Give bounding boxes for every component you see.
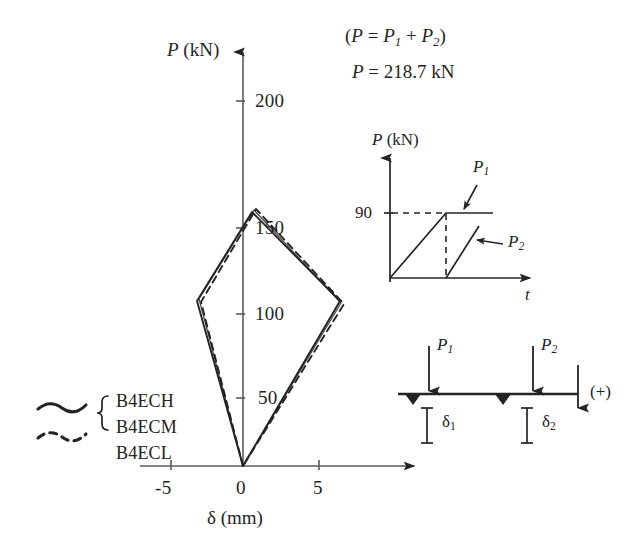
inset-series-label-p1: P1 — [473, 158, 489, 178]
inset-p2-subscript: 2 — [518, 240, 524, 253]
relation-p2: P — [421, 25, 433, 46]
beam-support-right-icon — [495, 394, 511, 405]
x-tick-label-5: 5 — [313, 478, 323, 497]
legend-label-b4ech: B4ECH — [116, 392, 174, 410]
inset-y-axis-title: P (kN) — [372, 131, 419, 148]
inset-y-axis-unit: (kN) — [387, 130, 419, 149]
relation-p: P — [351, 25, 363, 46]
inset-p2-pointer-arrow — [477, 240, 503, 244]
deflection-markers — [421, 408, 533, 443]
x-tick-label-0: 0 — [236, 478, 246, 497]
legend-samples — [38, 396, 108, 441]
figure-container: P (kN) 200 150 100 50 -5 0 5 δ (mm) (P =… — [0, 0, 644, 552]
curve-b4ecl — [201, 209, 344, 466]
y-tick-label-50: 50 — [258, 388, 278, 407]
beam-p2-symbol: P — [541, 335, 551, 354]
beam-p2-subscript: 2 — [551, 343, 557, 356]
y-tick-label-100: 100 — [255, 304, 284, 323]
annotation-load-relation: (P = P1 + P2) — [345, 26, 446, 49]
deflection-label-delta1: δ1 — [442, 413, 456, 433]
x-axis-title-unit: (mm) — [221, 507, 263, 528]
figure-vector-layer — [0, 0, 644, 552]
beam-load-label-p2: P2 — [541, 336, 557, 356]
beam-p1-symbol: P — [437, 335, 447, 354]
legend-dashed-wave-icon — [38, 433, 86, 441]
x-axis-title-symbol: δ — [207, 507, 216, 528]
inset-p1-subscript: 1 — [483, 165, 489, 178]
inset-series-p1 — [390, 213, 493, 278]
inset-chart — [384, 158, 530, 282]
sign-convention-label: (+) — [590, 383, 611, 400]
inset-p2-symbol: P — [508, 232, 518, 251]
total-load-symbol: P — [352, 61, 364, 82]
inset-series-p2 — [446, 226, 479, 278]
x-tick-label-neg5: -5 — [155, 478, 171, 497]
curve-b4ech-b4ecm-alt — [199, 210, 341, 466]
beam-p1-subscript: 1 — [447, 343, 453, 356]
deflection-label-delta2: δ2 — [542, 413, 556, 433]
total-load-value: = 218.7 kN — [368, 61, 454, 82]
y-axis-title: P (kN) — [167, 40, 219, 59]
y-axis-title-unit: (kN) — [183, 39, 219, 60]
beam-load-label-p1: P1 — [437, 336, 453, 356]
inset-p1-symbol: P — [473, 157, 483, 176]
load-deflection-curves — [197, 209, 344, 466]
y-axis-title-symbol: P — [167, 39, 179, 60]
legend-label-b4ecm: B4ECM — [116, 418, 177, 436]
relation-equals: = — [363, 25, 383, 46]
legend-label-b4ecl: B4ECL — [116, 444, 172, 462]
curve-b4ech-b4ecm — [197, 212, 340, 466]
relation-plus: + — [401, 25, 421, 46]
delta1-subscript: 1 — [450, 420, 456, 433]
relation-close-paren: ) — [440, 25, 446, 46]
inset-y-axis-symbol: P — [372, 130, 382, 149]
y-tick-label-150: 150 — [255, 218, 284, 237]
beam-support-left-icon — [405, 394, 421, 405]
inset-series-label-p2: P2 — [508, 233, 524, 253]
inset-p1-pointer-arrow — [464, 185, 477, 209]
relation-p1: P — [383, 25, 395, 46]
inset-x-axis-title: t — [525, 286, 530, 303]
delta2-symbol: δ — [542, 412, 550, 431]
y-tick-label-200: 200 — [255, 91, 284, 110]
legend-brace-icon — [97, 396, 108, 430]
x-axis-title: δ (mm) — [207, 508, 263, 527]
legend-solid-wave-icon — [38, 404, 86, 412]
annotation-total-load: P = 218.7 kN — [352, 62, 455, 81]
inset-y-tick-label-90: 90 — [355, 204, 372, 221]
delta2-subscript: 2 — [550, 420, 556, 433]
delta1-symbol: δ — [442, 412, 450, 431]
